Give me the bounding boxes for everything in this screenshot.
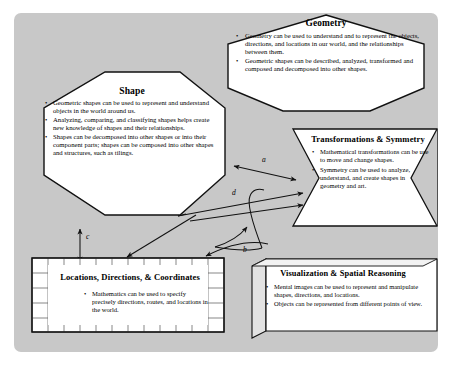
node-shape-shape[interactable] [44, 72, 225, 215]
node-geometry-shape[interactable] [228, 15, 424, 111]
edge-b-visualization-to-shape [249, 189, 264, 248]
node-visualization-shape[interactable] [252, 259, 437, 338]
edge-b-lower [215, 247, 262, 250]
node-locations-shape[interactable] [32, 258, 224, 332]
diagram-canvas: Geometry Geometry can be used to underst… [0, 0, 454, 370]
edge-e-shape-to-locations [127, 215, 196, 257]
edge-a-shape-transformations [234, 166, 296, 180]
edge-extra-to-transformations [190, 205, 303, 221]
diagram-vector-layer [0, 0, 454, 370]
